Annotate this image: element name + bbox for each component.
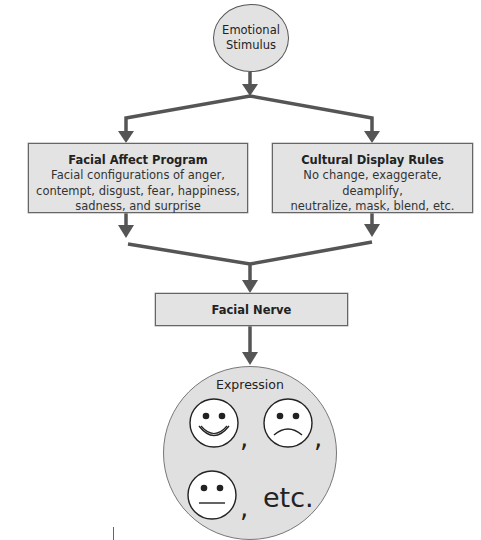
facial-nerve-box: Facial Nerve <box>155 293 348 326</box>
facial-affect-desc-line3: sadness, and surprise <box>29 199 247 215</box>
arrowhead-icon <box>242 280 258 293</box>
cultural-display-rules-title: Cultural Display Rules <box>273 152 472 168</box>
facial-affect-program-box: Facial Affect Program Facial configurati… <box>28 143 248 213</box>
facial-affect-program-title: Facial Affect Program <box>29 152 247 168</box>
separator-comma: , <box>240 495 248 521</box>
expression-node: Expression , , , etc. <box>163 366 337 540</box>
etc-label: etc. <box>263 484 314 511</box>
happy-face-icon <box>188 397 240 449</box>
facial-affect-desc-line1: Facial configurations of anger, <box>29 168 247 184</box>
arrowhead-icon <box>242 352 258 365</box>
separator-comma: , <box>314 425 322 451</box>
arrowhead-icon <box>242 84 258 96</box>
neutral-face-icon <box>186 469 238 521</box>
separator-comma: , <box>240 425 248 451</box>
emotional-stimulus-node: Emotional Stimulus <box>213 4 289 72</box>
facial-affect-desc-line2: contempt, disgust, fear, happiness, <box>29 184 247 200</box>
stimulus-label-line2: Stimulus <box>226 38 276 53</box>
arrowhead-icon <box>364 224 380 237</box>
arrowhead-icon <box>364 131 380 143</box>
facial-nerve-title: Facial Nerve <box>212 302 292 318</box>
cultural-display-rules-box: Cultural Display Rules No change, exagge… <box>272 143 473 213</box>
cultural-display-desc-line2: neutralize, mask, blend, etc. <box>273 199 472 215</box>
sad-face-icon <box>262 397 314 449</box>
stimulus-label-line1: Emotional <box>222 23 280 38</box>
arrowhead-icon <box>118 131 134 143</box>
arrowhead-icon <box>118 225 134 238</box>
expression-title: Expression <box>164 377 336 392</box>
page-margin-mark <box>113 527 114 540</box>
cultural-display-desc-line1: No change, exaggerate, deamplify, <box>273 168 472 199</box>
